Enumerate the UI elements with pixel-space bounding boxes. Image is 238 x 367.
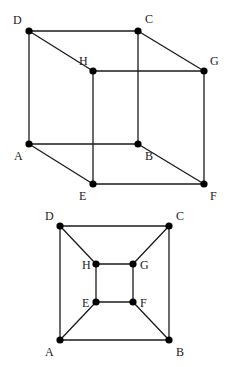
vertex-label-d: D xyxy=(13,13,22,27)
vertex-e xyxy=(89,180,96,187)
vertex-b xyxy=(134,140,141,147)
vertex-label-h: H xyxy=(82,258,91,272)
cube-graph-diagrams: ABCDEFGH ABCDEFGH xyxy=(0,0,238,367)
cube-3d-diagram: ABCDEFGH xyxy=(13,12,219,203)
edge-cg xyxy=(133,226,169,264)
vertex-label-c: C xyxy=(176,209,184,223)
vertex-label-d: D xyxy=(45,209,54,223)
vertex-label-b: B xyxy=(176,345,184,359)
vertex-label-a: A xyxy=(45,345,54,359)
vertex-a xyxy=(56,336,63,343)
edge-bf xyxy=(133,302,169,340)
vertex-h xyxy=(89,67,96,74)
vertex-d xyxy=(25,27,32,34)
vertex-label-a: A xyxy=(14,149,23,163)
vertex-label-f: F xyxy=(210,189,217,203)
vertex-c xyxy=(165,222,172,229)
vertex-label-c: C xyxy=(145,12,153,26)
cube-planar-diagram: ABCDEFGH xyxy=(45,209,184,359)
vertex-b xyxy=(165,336,172,343)
vertex-e xyxy=(92,298,99,305)
vertex-label-f: F xyxy=(140,296,147,310)
vertex-a xyxy=(25,140,32,147)
edge-cg xyxy=(138,31,204,71)
vertex-label-g: G xyxy=(140,258,149,272)
vertex-label-e: E xyxy=(82,296,89,310)
vertex-g xyxy=(129,260,136,267)
vertex-h xyxy=(92,260,99,267)
vertex-d xyxy=(56,222,63,229)
edge-ae xyxy=(29,144,93,184)
vertex-g xyxy=(200,67,207,74)
vertex-label-b: B xyxy=(145,149,153,163)
vertex-label-e: E xyxy=(79,189,86,203)
vertex-f xyxy=(129,298,136,305)
vertex-f xyxy=(200,180,207,187)
vertex-label-h: H xyxy=(79,54,88,68)
edge-ae xyxy=(60,302,96,340)
vertex-c xyxy=(134,27,141,34)
vertex-label-g: G xyxy=(210,54,219,68)
